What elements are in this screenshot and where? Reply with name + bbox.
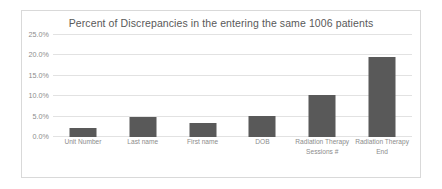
x-axis-tick-label: DOB: [233, 137, 293, 147]
y-axis-tick-label: 25.0%: [29, 30, 49, 39]
x-axis-tick-label-line: Radiation Therapy: [352, 137, 412, 147]
y-axis-tick-label: 5.0%: [33, 111, 49, 120]
x-axis-tick-label-line: End: [352, 147, 412, 157]
chart-container: Percent of Discrepancies in the entering…: [21, 10, 421, 178]
bar[interactable]: [309, 95, 336, 137]
plot-area: 0.0%5.0%10.0%15.0%20.0%25.0%: [53, 35, 412, 137]
bar-slot: [113, 35, 173, 137]
bar[interactable]: [249, 116, 276, 137]
y-axis-tick-label: 20.0%: [29, 50, 49, 59]
y-axis-tick-label: 15.0%: [29, 70, 49, 79]
bar-slot: [53, 35, 113, 137]
x-axis-tick-label-line: Radiation Therapy: [292, 137, 352, 147]
bar-slot: [173, 35, 233, 137]
bars-layer: [53, 35, 412, 137]
x-axis-tick-label-line: First name: [173, 137, 233, 147]
x-axis-tick-label: First name: [173, 137, 233, 147]
x-axis-tick-label: Radiation TherapyEnd: [352, 137, 412, 156]
bar[interactable]: [69, 128, 96, 137]
bar[interactable]: [189, 123, 216, 137]
y-axis-tick-label: 10.0%: [29, 91, 49, 100]
x-axis-tick-label-line: Sessions #: [292, 147, 352, 157]
bar-slot: [292, 35, 352, 137]
x-axis-tick-label-line: Unit Number: [53, 137, 113, 147]
chart-title: Percent of Discrepancies in the entering…: [22, 17, 420, 29]
bar-slot: [352, 35, 412, 137]
category-axis-labels: Unit NumberLast nameFirst nameDOBRadiati…: [53, 137, 412, 171]
x-axis-tick-label: Last name: [113, 137, 173, 147]
bar[interactable]: [369, 57, 396, 137]
x-axis-tick-label: Unit Number: [53, 137, 113, 147]
x-axis-tick-label: Radiation TherapySessions #: [292, 137, 352, 156]
x-axis-tick-label-line: DOB: [233, 137, 293, 147]
bar-slot: [233, 35, 293, 137]
y-axis-tick-label: 0.0%: [33, 132, 49, 141]
x-axis-tick-label-line: Last name: [113, 137, 173, 147]
bar[interactable]: [129, 117, 156, 137]
